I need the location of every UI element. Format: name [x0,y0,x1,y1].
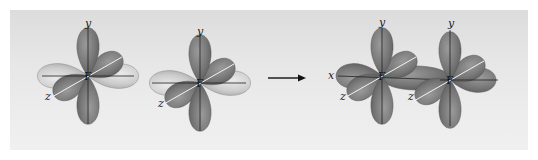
atom-3-label: F [378,70,386,83]
atom-3-z-label: z [339,90,346,103]
atom-4-label: F [446,74,454,87]
atom-1-label: F [84,70,92,83]
atom-1-y-label: y [84,17,92,30]
atom-3-x-label: x [328,69,335,82]
atom-4-z-label: z [407,90,414,103]
reaction-arrow-icon [268,75,306,82]
orbital-diagram: F y z F y z [0,0,538,160]
atom-2-label: F [196,77,204,90]
atom-3-y-label: y [378,16,386,29]
atom-4-y-label: y [447,17,455,30]
atom-2-z-label: z [157,97,164,110]
atom-2-y-label: y [196,25,204,38]
atom-1-z-label: z [44,90,51,103]
